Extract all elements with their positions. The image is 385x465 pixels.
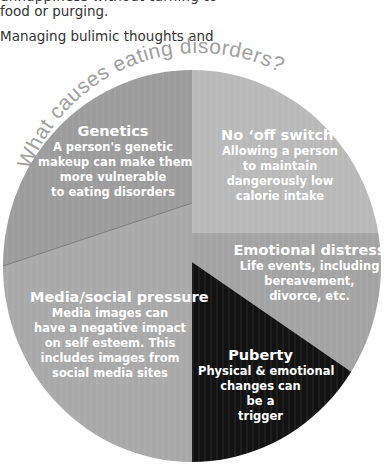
eating-disorders-pie: What causes eating disorders? xyxy=(0,0,385,465)
emotional-distress-heading: Emotional distress xyxy=(232,241,385,259)
media-social-pressure-description: Media images can have a negative impact … xyxy=(30,306,190,381)
label-no-off-switch: No ‘off switch’ Allowing a person to mai… xyxy=(210,126,350,204)
no-off-switch-description: Allowing a person to maintain dangerousl… xyxy=(210,144,350,204)
genetics-description: A person's genetic makeup can make them … xyxy=(38,140,188,200)
puberty-heading: Puberty xyxy=(198,346,323,364)
label-genetics: Genetics A person's genetic makeup can m… xyxy=(38,122,188,200)
label-media-social-pressure: Media/social pressure Media images can h… xyxy=(30,288,190,381)
genetics-heading: Genetics xyxy=(38,122,188,140)
no-off-switch-heading: No ‘off switch’ xyxy=(210,126,350,144)
label-emotional-distress: Emotional distress Life events, includin… xyxy=(232,241,385,304)
label-puberty: Puberty Physical & emotional changes can… xyxy=(198,346,323,424)
puberty-description: Physical & emotional changes can be a tr… xyxy=(198,364,323,424)
media-social-pressure-heading: Media/social pressure xyxy=(30,288,190,306)
emotional-distress-description: Life events, including bereavement, divo… xyxy=(232,259,385,304)
